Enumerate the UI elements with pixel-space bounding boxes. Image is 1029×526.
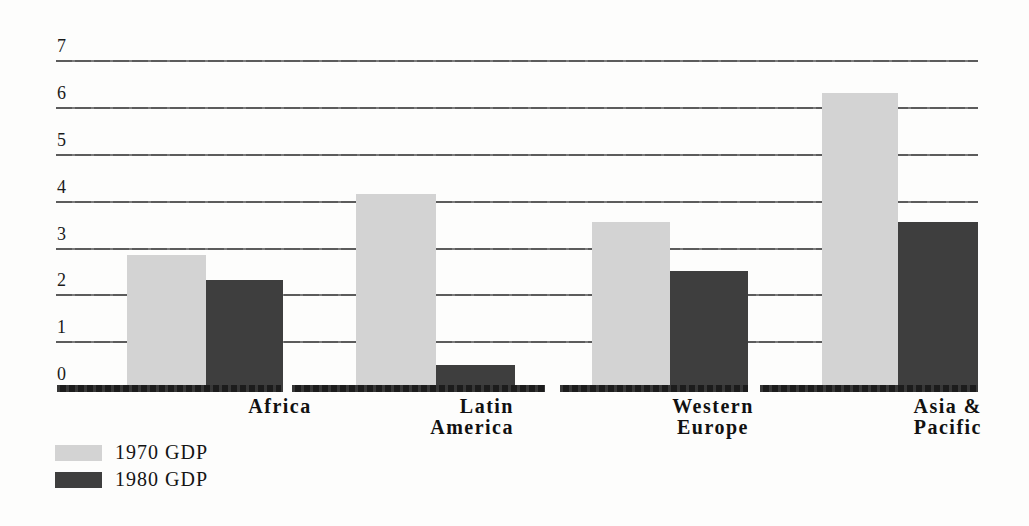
x-axis-label-asia-pacific: Asia &Pacific bbox=[914, 396, 982, 438]
bar-1980-western-europe bbox=[670, 271, 748, 392]
legend-item-1970: 1970 GDP bbox=[55, 444, 208, 461]
bar-1980-africa bbox=[206, 280, 283, 392]
y-axis-tick-label-2: 2 bbox=[57, 270, 66, 290]
y-axis-tick-label-7: 7 bbox=[57, 36, 66, 56]
x-axis-segment-3 bbox=[760, 385, 978, 392]
gdp-bar-chart-figure: 01234567AfricaLatinAmericaWesternEuropeA… bbox=[0, 0, 1029, 526]
legend: 1970 GDP 1980 GDP bbox=[55, 444, 208, 498]
x-axis-segment-1 bbox=[292, 385, 545, 392]
y-axis-tick-label-5: 5 bbox=[57, 130, 66, 150]
legend-label-1980: 1980 GDP bbox=[115, 471, 208, 488]
bar-1970-latin-america bbox=[356, 194, 436, 392]
bar-1980-asia-pacific bbox=[898, 222, 978, 392]
x-axis-label-western-europe: WesternEurope bbox=[672, 396, 754, 438]
bar-1970-asia-pacific bbox=[822, 93, 898, 392]
y-axis-tick-label-3: 3 bbox=[57, 224, 66, 244]
legend-swatch-1970-icon bbox=[55, 445, 102, 461]
y-axis-tick-label-6: 6 bbox=[57, 83, 66, 103]
bar-1970-western-europe bbox=[592, 222, 670, 392]
x-axis-label-africa: Africa bbox=[248, 396, 311, 417]
legend-label-1970: 1970 GDP bbox=[115, 444, 208, 461]
legend-item-1980: 1980 GDP bbox=[55, 471, 208, 488]
y-axis-tick-label-4: 4 bbox=[57, 177, 66, 197]
gridline-y7 bbox=[56, 60, 978, 62]
y-axis-tick-label-1: 1 bbox=[57, 317, 66, 337]
legend-swatch-1980-icon bbox=[55, 472, 102, 488]
x-axis-label-latin-america: LatinAmerica bbox=[430, 396, 514, 438]
bar-1970-africa bbox=[127, 255, 206, 392]
x-axis-segment-2 bbox=[560, 385, 748, 392]
x-axis-segment-0 bbox=[57, 385, 281, 392]
y-axis-tick-label-0: 0 bbox=[57, 364, 66, 384]
